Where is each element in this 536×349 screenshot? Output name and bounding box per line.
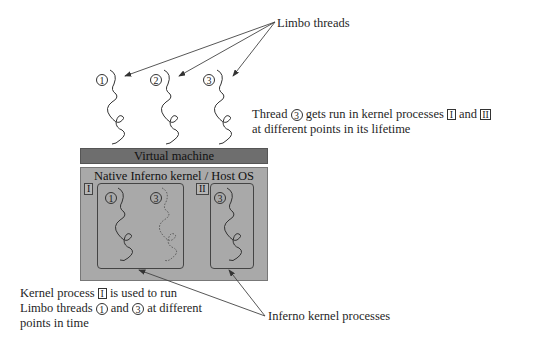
limbo-arrows: [125, 22, 275, 76]
kernel-note: Kernel process I is used to run: [20, 286, 177, 301]
note-text: is used to run: [110, 286, 177, 300]
thread-squiggles: [107, 70, 231, 144]
inferno-processes-label: Inferno kernel processes: [268, 309, 390, 324]
kernel-note-line3: points in time: [20, 316, 89, 331]
dotted-squiggle: [159, 188, 176, 261]
process-squiggles: [115, 188, 241, 261]
note-text: at different: [147, 301, 202, 315]
thread-number: 1: [96, 303, 108, 315]
kernel-note-line2: Limbo threads 1 and 3 at different: [20, 301, 202, 316]
note-text: Kernel process: [20, 286, 95, 300]
note-text: and: [111, 301, 129, 315]
process-number: I: [98, 288, 107, 299]
note-text: Limbo threads: [20, 301, 93, 315]
thread-number: 3: [132, 303, 144, 315]
